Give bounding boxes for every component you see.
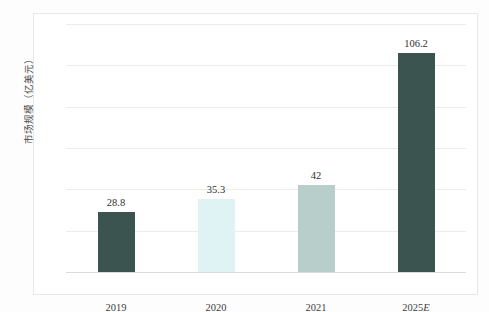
bar-value-label: 42 bbox=[311, 170, 322, 181]
bar-value-label: 106.2 bbox=[404, 38, 428, 49]
x-axis-tick-label: 2020 bbox=[176, 302, 256, 312]
bar-value-label: 28.8 bbox=[107, 197, 125, 208]
gridline bbox=[66, 24, 466, 25]
bar: 42 bbox=[298, 185, 335, 272]
y-axis-title: 市场规模（亿美元） bbox=[21, 29, 35, 169]
plot-area: 02040608010012028.8201935.32020422021106… bbox=[66, 24, 466, 272]
x-axis-tick-label: 2025E bbox=[376, 302, 456, 312]
x-axis-tick-label: 2021 bbox=[276, 302, 356, 312]
bar: 106.2 bbox=[398, 53, 435, 272]
bar-value-label: 35.3 bbox=[207, 184, 225, 195]
bar: 28.8 bbox=[98, 212, 135, 272]
bar: 35.3 bbox=[198, 199, 235, 272]
x-axis-tick-label: 2019 bbox=[76, 302, 156, 312]
gridline bbox=[66, 272, 466, 273]
bar-chart: 市场规模（亿美元） 02040608010012028.8201935.3202… bbox=[0, 0, 489, 312]
